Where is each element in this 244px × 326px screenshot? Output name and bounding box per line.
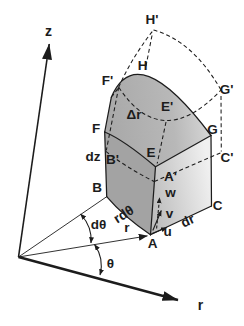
point-label-g: G <box>207 122 218 137</box>
dz-label: dz <box>86 149 101 164</box>
u-vector-label: u <box>163 224 171 239</box>
point-label-e-prime: E' <box>161 99 173 114</box>
point-label-c-prime: C' <box>221 150 234 165</box>
point-label-c: C <box>213 198 223 213</box>
z-axis <box>19 44 50 257</box>
delta-r-label: Δr <box>127 107 143 122</box>
point-label-a: A <box>148 236 158 251</box>
point-label-b-prime: B' <box>106 152 119 167</box>
z-axis-label: z <box>45 23 52 39</box>
point-label-a-prime: A' <box>164 169 177 184</box>
dashed-arc-hprime-gprime <box>154 30 222 90</box>
point-label-b: B <box>92 180 102 195</box>
r-axis-label: r <box>198 297 204 313</box>
point-label-h-prime: H' <box>146 12 159 27</box>
point-label-e: E <box>146 145 155 160</box>
theta-label: θ <box>107 256 114 271</box>
point-label-f-prime: F' <box>102 73 113 88</box>
v-vector-label: v <box>166 206 174 221</box>
w-vector-label: w <box>164 185 176 200</box>
dtheta-label: dθ <box>91 217 107 232</box>
dtheta-angle-arc <box>81 214 92 243</box>
r-axis <box>19 257 179 300</box>
diagram-canvas: z r H' H F' G' E' F Δr G dz B' E C' A' B… <box>0 0 244 326</box>
radius-arrow-origin-a <box>19 236 148 257</box>
point-label-f: F <box>92 121 100 136</box>
point-label-h: H <box>138 58 148 73</box>
point-label-g-prime: G' <box>220 82 234 97</box>
theta-angle-arc <box>95 245 102 276</box>
diagram-cylindrical-volume-element: z r H' H F' G' E' F Δr G dz B' E C' A' B… <box>0 0 244 326</box>
edge-c-g <box>211 136 212 207</box>
